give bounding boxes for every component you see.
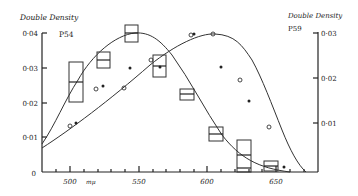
x-tick-labels: 500 550 600 650 mμ	[63, 178, 283, 186]
right-ticks	[313, 33, 318, 123]
left-tick-labels: 0·04 0·03 0·02 0·01 0	[22, 30, 38, 178]
svg-text:0·03: 0·03	[321, 30, 337, 38]
p59-open-points	[68, 32, 271, 129]
svg-text:550: 550	[132, 178, 146, 186]
left-series-label: P54	[59, 30, 74, 39]
svg-text:0·03: 0·03	[22, 65, 38, 73]
svg-text:0: 0	[32, 170, 36, 178]
right-series-label: P59	[288, 25, 302, 33]
spectral-density-chart: 0·04 0·03 0·02 0·01 0 0·03 0·02 0·01	[0, 0, 358, 196]
x-unit-label: mμ	[86, 178, 96, 186]
p54-boxes	[69, 25, 278, 172]
p59-curve	[42, 34, 306, 172]
svg-text:0·02: 0·02	[321, 75, 337, 83]
right-tick-labels: 0·03 0·02 0·01	[321, 30, 337, 128]
left-axis-title: Double Density	[19, 13, 79, 22]
svg-text:0·04: 0·04	[22, 30, 38, 38]
left-ticks	[42, 33, 47, 137]
svg-text:0·01: 0·01	[321, 120, 337, 128]
svg-text:0·01: 0·01	[22, 134, 38, 142]
svg-text:0·02: 0·02	[22, 100, 38, 108]
right-axis-title: Double Density	[287, 12, 343, 20]
svg-text:500: 500	[63, 178, 77, 186]
svg-text:650: 650	[269, 178, 283, 186]
svg-text:600: 600	[200, 178, 214, 186]
